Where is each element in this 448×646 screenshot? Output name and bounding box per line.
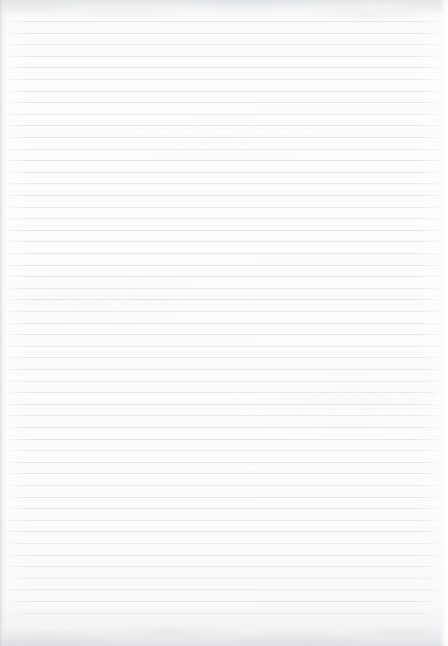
paper-top-edge	[0, 0, 448, 22]
scanned-page	[0, 0, 448, 646]
paper-right-edge-gutter	[440, 0, 448, 646]
paper-left-edge-shadow	[0, 0, 6, 646]
paper-grain-texture	[0, 0, 448, 646]
paper-bottom-edge	[0, 620, 448, 646]
